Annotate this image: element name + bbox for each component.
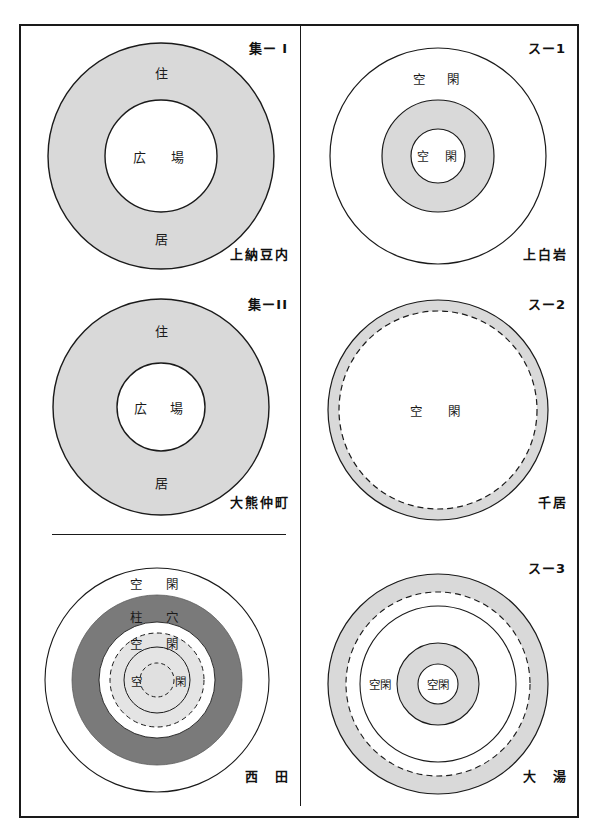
panel-code-su-2: スー2 — [528, 294, 566, 313]
label-ring-open: 空閑 — [369, 678, 391, 692]
label-ring-inner-open: 空 閑 — [130, 637, 184, 652]
panel-site-shu-2: 大熊仲町 — [230, 492, 290, 511]
label-outer-top: 空 閑 — [413, 72, 464, 87]
label-ring-posthole: 柱 穴 — [130, 610, 184, 625]
label-center: 空閑 — [427, 678, 449, 692]
label-ring-outer: 空 閑 — [130, 577, 184, 592]
label-center-right: 閑 — [175, 675, 186, 689]
panel-nishida: 空 閑 柱 穴 空 閑 空 閑 西 田 — [20, 548, 300, 806]
left-column-separator — [52, 534, 286, 535]
core-dashed-circle — [140, 663, 174, 697]
panel-site-su-1: 上白岩 — [523, 244, 568, 263]
label-center: 広 場 — [134, 401, 188, 416]
concentric-settlement-diagram: 住 広 場 居 集ー I 上納豆内 空 閑 空 閑 スー1 上白岩 住 広 場 … — [0, 0, 598, 836]
panel-code-su-1: スー1 — [528, 38, 566, 57]
label-center: 広 場 — [133, 150, 190, 165]
panel-shu-2: 住 広 場 居 集ーII 大熊仲町 — [20, 286, 300, 532]
panel-site-su-2: 千居 — [538, 492, 568, 511]
label-center: 空 閑 — [417, 150, 459, 164]
column-divider — [300, 26, 301, 806]
panel-code-shu-1: 集ー I — [249, 38, 288, 57]
panel-su-1: 空 閑 空 閑 スー1 上白岩 — [302, 26, 578, 284]
label-center-left: 空 — [131, 675, 142, 689]
panel-site-shu-1: 上納豆内 — [230, 244, 290, 263]
panel-code-su-3: スー3 — [528, 558, 566, 577]
label-outer-bottom: 居 — [155, 476, 168, 491]
label-outer-bottom: 居 — [155, 232, 168, 247]
label-outer-top: 住 — [155, 66, 168, 81]
panel-site-nishida: 西 田 — [245, 766, 290, 785]
panel-code-shu-2: 集ーII — [248, 294, 288, 313]
label-center: 空 閑 — [410, 404, 467, 419]
panel-shu-1: 住 広 場 居 集ー I 上納豆内 — [20, 26, 300, 284]
panel-site-su-3: 大 湯 — [523, 766, 568, 785]
panel-su-2: 空 閑 スー2 千居 — [302, 286, 578, 532]
panel-su-3: 空閑 空閑 スー3 大 湯 — [302, 548, 578, 806]
label-outer-top: 住 — [155, 324, 168, 339]
panel-su-2-drawing: 空 閑 — [302, 286, 578, 532]
